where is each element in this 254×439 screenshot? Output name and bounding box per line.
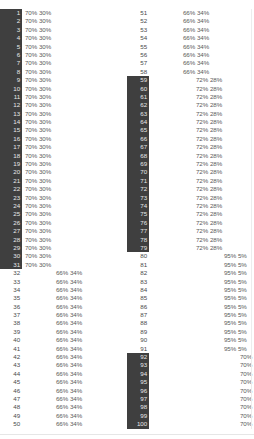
table-row[interactable]: 3070%30% [0, 252, 127, 260]
table-row[interactable]: 6572%28% [127, 126, 254, 134]
table-row[interactable]: 1470%30% [0, 118, 127, 126]
table-row[interactable]: 1970%30% [0, 160, 127, 168]
table-row[interactable]: 7972%28% [127, 244, 254, 252]
table-row[interactable]: 2770%30% [0, 227, 127, 235]
table-row[interactable]: 9970%30% [127, 412, 254, 420]
table-row[interactable]: 5366%34% [127, 26, 254, 34]
table-row[interactable]: 8995%5% [127, 328, 254, 336]
table-row[interactable]: 4566%34% [0, 378, 127, 386]
table-row[interactable]: 5266%34% [127, 17, 254, 25]
table-row[interactable]: 2670%30% [0, 219, 127, 227]
table-row[interactable]: 9670%30% [127, 387, 254, 395]
table-row[interactable]: 7272%28% [127, 185, 254, 193]
table-row[interactable]: 5666%34% [127, 51, 254, 59]
table-row[interactable]: 6672%28% [127, 135, 254, 143]
table-row[interactable]: 9770%30% [127, 395, 254, 403]
table-row[interactable]: 2970%30% [0, 244, 127, 252]
table-row[interactable]: 1270%30% [0, 101, 127, 109]
table-row[interactable]: 4366%34% [0, 361, 127, 369]
table-row[interactable]: 3366%34% [0, 278, 127, 286]
table-row[interactable]: 5166%34% [127, 9, 254, 17]
table-row[interactable]: 5866%34% [127, 68, 254, 76]
table-row[interactable]: 1870%30% [0, 152, 127, 160]
table-row[interactable]: 3566%34% [0, 294, 127, 302]
table-row[interactable]: 770%30% [0, 59, 127, 67]
table-row[interactable]: 6772%28% [127, 143, 254, 151]
table-row[interactable]: 4866%34% [0, 403, 127, 411]
table-row[interactable]: 470%30% [0, 34, 127, 42]
table-row[interactable]: 4966%34% [0, 412, 127, 420]
table-row[interactable]: 1070%30% [0, 85, 127, 93]
table-row[interactable]: 7872%28% [127, 236, 254, 244]
table-row[interactable]: 3266%34% [0, 269, 127, 277]
table-row[interactable]: 170%30% [0, 9, 127, 17]
table-row[interactable]: 2170%30% [0, 177, 127, 185]
table-row[interactable]: 5466%34% [127, 34, 254, 42]
table-row[interactable]: 9570%30% [127, 378, 254, 386]
table-row[interactable]: 4166%34% [0, 345, 127, 353]
table-row[interactable]: 5972%28% [127, 76, 254, 84]
table-row[interactable]: 2870%30% [0, 236, 127, 244]
table-row[interactable]: 5566%34% [127, 43, 254, 51]
table-row[interactable]: 5766%34% [127, 59, 254, 67]
table-row[interactable]: 3866%34% [0, 319, 127, 327]
table-row[interactable]: 9270%30% [127, 353, 254, 361]
table-row[interactable]: 7172%28% [127, 177, 254, 185]
table-row[interactable]: 570%30% [0, 43, 127, 51]
table-row[interactable]: 8795%5% [127, 311, 254, 319]
table-row[interactable]: 8195%5% [127, 261, 254, 269]
table-row[interactable]: 8595%5% [127, 294, 254, 302]
table-row[interactable]: 4766%34% [0, 395, 127, 403]
table-row[interactable]: 7572%28% [127, 210, 254, 218]
table-row[interactable]: 8395%5% [127, 278, 254, 286]
table-row[interactable]: 1370%30% [0, 110, 127, 118]
table-row[interactable]: 2270%30% [0, 185, 127, 193]
table-row[interactable]: 370%30% [0, 26, 127, 34]
table-row[interactable]: 670%30% [0, 51, 127, 59]
table-row[interactable]: 8095%5% [127, 252, 254, 260]
table-row[interactable]: 4266%34% [0, 353, 127, 361]
table-row[interactable]: 1670%30% [0, 135, 127, 143]
table-row[interactable]: 9095%5% [127, 336, 254, 344]
table-row[interactable]: 6272%28% [127, 101, 254, 109]
table-row[interactable]: 7072%28% [127, 168, 254, 176]
table-row[interactable]: 6872%28% [127, 152, 254, 160]
table-row[interactable]: 6472%28% [127, 118, 254, 126]
table-row[interactable]: 7472%28% [127, 202, 254, 210]
table-row[interactable]: 7772%28% [127, 227, 254, 235]
table-row[interactable]: 8495%5% [127, 286, 254, 294]
table-row[interactable]: 7372%28% [127, 194, 254, 202]
table-row[interactable]: 3170%30% [0, 261, 127, 269]
table-row[interactable]: 270%30% [0, 17, 127, 25]
table-row[interactable]: 1770%30% [0, 143, 127, 151]
table-row[interactable]: 7672%28% [127, 219, 254, 227]
table-row[interactable]: 8895%5% [127, 319, 254, 327]
table-row[interactable]: 6072%28% [127, 85, 254, 93]
table-row[interactable]: 5066%34% [0, 420, 127, 428]
table-row[interactable]: 970%30% [0, 76, 127, 84]
table-row[interactable]: 1570%30% [0, 126, 127, 134]
table-row[interactable]: 4066%34% [0, 336, 127, 344]
table-row[interactable]: 3966%34% [0, 328, 127, 336]
table-row[interactable]: 2370%30% [0, 194, 127, 202]
table-row[interactable]: 2070%30% [0, 168, 127, 176]
table-row[interactable]: 9195%5% [127, 345, 254, 353]
table-row[interactable]: 8695%5% [127, 303, 254, 311]
table-row[interactable]: 9470%30% [127, 370, 254, 378]
table-row[interactable]: 8295%5% [127, 269, 254, 277]
table-row[interactable]: 9370%30% [127, 361, 254, 369]
table-row[interactable]: 10070%30% [127, 420, 254, 428]
table-row[interactable]: 6372%28% [127, 110, 254, 118]
table-row[interactable]: 4466%34% [0, 370, 127, 378]
table-row[interactable]: 3766%34% [0, 311, 127, 319]
table-row[interactable]: 870%30% [0, 68, 127, 76]
table-row[interactable]: 9870%30% [127, 403, 254, 411]
table-row[interactable]: 4666%34% [0, 387, 127, 395]
table-row[interactable]: 2570%30% [0, 210, 127, 218]
table-row[interactable]: 6972%28% [127, 160, 254, 168]
table-row[interactable]: 2470%30% [0, 202, 127, 210]
table-row[interactable]: 6172%28% [127, 93, 254, 101]
table-row[interactable]: 3666%34% [0, 303, 127, 311]
table-row[interactable]: 1170%30% [0, 93, 127, 101]
table-row[interactable]: 3466%34% [0, 286, 127, 294]
